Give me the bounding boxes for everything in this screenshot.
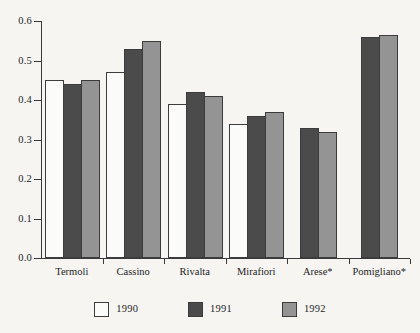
y-axis-tick <box>34 61 41 62</box>
y-axis-tick <box>34 100 41 101</box>
x-axis-category-label: Mirafiori <box>226 266 288 278</box>
legend-label-1990: 1990 <box>116 304 138 315</box>
y-axis-tick-label: 0.2 <box>2 174 32 185</box>
chart-legend: 199019911992 <box>0 302 420 317</box>
y-axis-tick <box>34 219 41 220</box>
legend-label-1992: 1992 <box>304 304 326 315</box>
bar-pomigliano-1991[interactable] <box>361 37 380 258</box>
y-axis-tick-label: 0.1 <box>2 214 32 225</box>
legend-swatch-1991 <box>188 302 203 317</box>
bar-chart: 0.00.10.20.30.40.50.6 TermoliCassinoRiva… <box>0 0 420 333</box>
legend-swatch-1992 <box>282 302 297 317</box>
y-axis-tick-label: 0.0 <box>2 253 32 264</box>
x-axis-category-label: Rivalta <box>164 266 226 278</box>
legend-item-1992[interactable]: 1992 <box>282 302 326 317</box>
legend-label-1991: 1991 <box>210 304 232 315</box>
y-axis-tick-label: 0.4 <box>2 95 32 106</box>
legend-swatch-1990 <box>94 302 109 317</box>
bar-group <box>287 21 349 258</box>
y-axis-tick <box>34 21 41 22</box>
bar-cassino-1990[interactable] <box>106 72 125 258</box>
bar-cassino-1991[interactable] <box>124 49 143 258</box>
bar-arese-1992[interactable] <box>318 132 337 258</box>
x-axis-tick <box>226 259 227 264</box>
y-axis-tick-label: 0.3 <box>2 135 32 146</box>
y-axis-tick-label: 0.6 <box>2 16 32 27</box>
legend-item-1991[interactable]: 1991 <box>188 302 232 317</box>
legend-item-1990[interactable]: 1990 <box>94 302 138 317</box>
bar-termoli-1990[interactable] <box>45 80 64 258</box>
x-axis-tick <box>164 259 165 264</box>
x-axis-category-label: Cassino <box>103 266 165 278</box>
x-axis-category-label: Arese* <box>287 266 349 278</box>
y-axis-tick <box>34 179 41 180</box>
bar-rivalta-1991[interactable] <box>186 92 205 258</box>
bar-group <box>226 21 288 258</box>
bar-group <box>41 21 103 258</box>
bar-termoli-1991[interactable] <box>63 84 82 258</box>
bar-mirafiori-1991[interactable] <box>247 116 266 258</box>
bar-pomigliano-1992[interactable] <box>379 35 398 258</box>
bar-termoli-1992[interactable] <box>81 80 100 258</box>
bar-group <box>164 21 226 258</box>
x-axis-category-label: Pomigliano* <box>349 266 411 278</box>
x-axis-tick <box>410 259 411 264</box>
y-axis-tick <box>34 140 41 141</box>
y-axis-tick-label: 0.5 <box>2 56 32 67</box>
plot-area <box>41 21 410 258</box>
bar-cassino-1992[interactable] <box>142 41 161 258</box>
bar-group <box>103 21 165 258</box>
bar-rivalta-1990[interactable] <box>168 104 187 258</box>
x-axis-tick <box>103 259 104 264</box>
x-axis-tick <box>287 259 288 264</box>
bar-rivalta-1992[interactable] <box>204 96 223 258</box>
bar-mirafiori-1990[interactable] <box>229 124 248 258</box>
x-axis-category-label: Termoli <box>41 266 103 278</box>
bar-arese-1991[interactable] <box>300 128 319 258</box>
y-axis-tick <box>34 258 41 259</box>
x-axis-tick <box>349 259 350 264</box>
bar-group <box>349 21 411 258</box>
bar-mirafiori-1992[interactable] <box>265 112 284 258</box>
